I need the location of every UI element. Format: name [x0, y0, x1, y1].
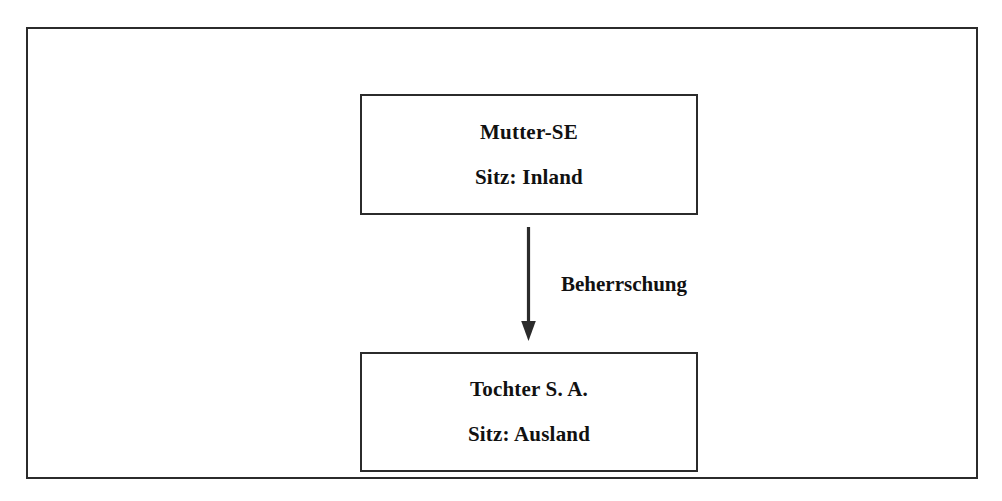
entity-box-parent: Mutter-SE Sitz: Inland	[360, 94, 698, 215]
control-arrow-icon	[518, 227, 544, 343]
control-relation-label: Beherrschung	[561, 274, 687, 295]
diagram-frame: Mutter-SE Sitz: Inland Beherrschung Toch…	[26, 27, 978, 479]
entity-subsidiary-name: Tochter S. A.	[470, 379, 588, 400]
entity-subsidiary-seat: Sitz: Ausland	[468, 424, 590, 445]
entity-parent-name: Mutter-SE	[480, 122, 578, 143]
entity-box-subsidiary: Tochter S. A. Sitz: Ausland	[360, 352, 698, 472]
entity-parent-seat: Sitz: Inland	[475, 167, 583, 188]
